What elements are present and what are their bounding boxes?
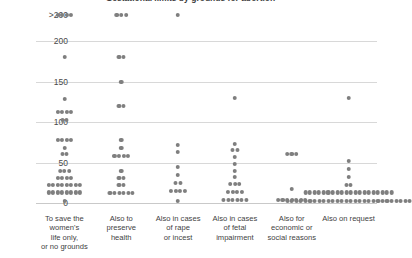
data-point-dot [178, 181, 182, 185]
data-point-dot [121, 55, 125, 59]
category-column [150, 10, 207, 210]
data-point-dot [178, 189, 182, 193]
data-point-dot [231, 190, 235, 194]
data-point-dot [121, 183, 125, 187]
data-point-dot [381, 199, 385, 203]
data-point-dot [281, 198, 285, 202]
data-point-dot [349, 199, 353, 203]
data-point-dot [121, 104, 125, 108]
data-point-dot [119, 138, 123, 142]
data-point-dot [376, 190, 380, 194]
data-point-dot [313, 190, 317, 194]
data-point-dot [117, 183, 121, 187]
data-point-dot [222, 198, 226, 202]
dot-stack [230, 148, 239, 152]
data-point-dot [344, 183, 348, 187]
dot-stack [346, 96, 351, 100]
data-point-dot [367, 190, 371, 194]
data-point-dot [62, 146, 66, 150]
x-axis-label: Also on request [308, 214, 389, 223]
data-point-dot [117, 176, 121, 180]
dot-stack [346, 159, 351, 163]
data-point-dot [51, 190, 55, 194]
dot-stack [62, 97, 67, 101]
dot-stack [303, 190, 394, 194]
data-point-dot [56, 176, 60, 180]
dot-stack [62, 199, 67, 203]
dot-stack [176, 150, 181, 154]
dot-stack [226, 190, 244, 194]
data-point-dot [131, 191, 135, 195]
data-point-dot [326, 199, 330, 203]
data-point-dot [47, 190, 51, 194]
data-point-dot [56, 110, 60, 114]
data-point-dot [235, 198, 239, 202]
data-point-dot [112, 191, 116, 195]
data-point-dot [285, 199, 289, 203]
data-point-dot [326, 190, 330, 194]
data-point-dot [67, 169, 71, 173]
data-point-dot [322, 190, 326, 194]
data-point-dot [126, 191, 130, 195]
data-point-dot [344, 190, 348, 194]
dot-stack [55, 176, 73, 180]
data-point-dot [313, 199, 317, 203]
dot-stack [46, 190, 82, 194]
data-point-dot [65, 176, 69, 180]
dot-stack [344, 183, 353, 187]
data-point-dot [371, 190, 375, 194]
data-point-dot [119, 13, 123, 17]
data-point-dot [62, 169, 66, 173]
data-point-dot [176, 143, 180, 147]
data-point-dot [308, 199, 312, 203]
data-point-dot [108, 191, 112, 195]
data-point-dot [376, 199, 380, 203]
category-column [93, 10, 150, 210]
data-point-dot [308, 190, 312, 194]
dot-stack [117, 55, 126, 59]
dot-stack [346, 175, 351, 179]
data-point-dot [233, 155, 237, 159]
data-point-dot [299, 199, 303, 203]
data-point-dot [121, 191, 125, 195]
data-point-dot [228, 182, 232, 186]
data-point-dot [358, 199, 362, 203]
dot-stack [346, 167, 351, 171]
dot-stack [55, 138, 73, 142]
data-point-dot [233, 169, 237, 173]
dot-stack [60, 152, 69, 156]
data-point-dot [65, 138, 69, 142]
data-point-dot [347, 96, 351, 100]
x-axis-labels: To save thewomen'slife only,or no ground… [36, 214, 377, 258]
data-point-dot [60, 118, 64, 122]
data-point-dot [240, 190, 244, 194]
data-point-dot [322, 199, 326, 203]
dot-stack [114, 13, 128, 17]
dot-stack [228, 182, 242, 186]
data-point-dot [244, 198, 248, 202]
data-point-dot [117, 104, 121, 108]
dot-stack [289, 187, 294, 191]
data-point-dot [353, 199, 357, 203]
category-column [263, 10, 320, 210]
data-point-dot [235, 190, 239, 194]
data-point-dot [174, 181, 178, 185]
data-point-dot [117, 154, 121, 158]
data-point-dot [69, 138, 73, 142]
data-point-dot [349, 190, 353, 194]
data-point-dot [303, 199, 307, 203]
data-point-dot [231, 198, 235, 202]
data-point-dot [121, 154, 125, 158]
data-point-dot [237, 182, 241, 186]
data-point-dot [233, 142, 237, 146]
data-point-dot [349, 183, 353, 187]
data-point-dot [51, 183, 55, 187]
data-point-dot [117, 55, 121, 59]
data-point-dot [65, 183, 69, 187]
data-point-dot [344, 199, 348, 203]
data-point-dot [112, 154, 116, 158]
data-point-dot [176, 13, 180, 17]
data-point-dot [69, 183, 73, 187]
dot-stack [233, 155, 238, 159]
dot-stack [176, 13, 181, 17]
